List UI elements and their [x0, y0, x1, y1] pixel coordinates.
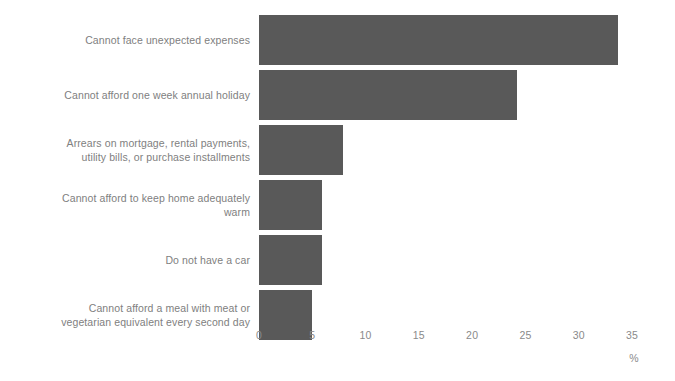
x-tick-label: 0: [256, 329, 262, 341]
bar-chart: Cannot face unexpected expensesCannot af…: [0, 0, 675, 381]
bar: [259, 180, 322, 230]
x-tick-label: 25: [519, 329, 531, 341]
x-tick-label: 5: [309, 329, 315, 341]
bar-track: [259, 15, 618, 65]
bar-track: [259, 125, 343, 175]
bar-row: Do not have a car: [0, 235, 675, 285]
bar: [259, 290, 312, 340]
x-tick-label: 35: [626, 329, 638, 341]
x-tick-label: 15: [413, 329, 425, 341]
bar-track: [259, 70, 517, 120]
bar: [259, 15, 618, 65]
bar-category-label: Cannot afford one week annual holiday: [20, 88, 250, 102]
bar-row: Cannot afford one week annual holiday: [0, 70, 675, 120]
bar: [259, 235, 322, 285]
bar-row: Cannot face unexpected expenses: [0, 15, 675, 65]
bar-track: [259, 290, 312, 340]
bar-row: Arrears on mortgage, rental payments, ut…: [0, 125, 675, 175]
bar-category-label: Arrears on mortgage, rental payments, ut…: [20, 136, 250, 164]
x-axis: [259, 324, 632, 325]
bar-row: Cannot afford to keep home adequately wa…: [0, 180, 675, 230]
bar: [259, 125, 343, 175]
bar-category-label: Cannot face unexpected expenses: [20, 33, 250, 47]
x-tick-label: 10: [360, 329, 372, 341]
bar-track: [259, 235, 322, 285]
x-tick-label: 30: [573, 329, 585, 341]
bar-track: [259, 180, 322, 230]
bar-category-label: Cannot afford to keep home adequately wa…: [20, 191, 250, 219]
x-tick-label: 20: [466, 329, 478, 341]
bar-category-label: Do not have a car: [20, 253, 250, 267]
bar-category-label: Cannot afford a meal with meat or vegeta…: [20, 301, 250, 329]
bar: [259, 70, 517, 120]
x-axis-unit-label: %: [629, 352, 638, 364]
